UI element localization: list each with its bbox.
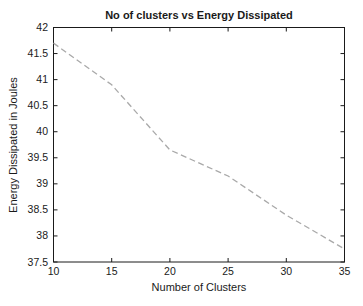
y-tick-label: 37.5 — [28, 256, 49, 268]
y-tick-label: 41 — [36, 73, 48, 85]
y-tick-label: 40 — [36, 125, 48, 137]
x-tick-label: 35 — [339, 265, 351, 277]
y-tick-label: 40.5 — [28, 99, 49, 111]
plot-area: 10152025303537.53838.53939.54040.54141.5… — [0, 0, 363, 306]
y-tick-label: 38.5 — [28, 203, 49, 215]
x-tick-label: 30 — [280, 265, 292, 277]
y-tick-label: 39.5 — [28, 151, 49, 163]
y-tick-label: 39 — [36, 177, 48, 189]
x-tick-label: 15 — [106, 265, 118, 277]
y-tick-label: 42 — [36, 21, 48, 33]
x-tick-label: 10 — [48, 265, 60, 277]
energy-dissipated-line — [54, 43, 345, 249]
x-tick-label: 25 — [222, 265, 234, 277]
y-tick-label: 38 — [36, 229, 48, 241]
figure-window: No of clusters vs Energy Dissipated Ener… — [0, 0, 363, 306]
x-tick-label: 20 — [164, 265, 176, 277]
axes-box — [54, 28, 345, 263]
y-tick-label: 41.5 — [28, 47, 49, 59]
